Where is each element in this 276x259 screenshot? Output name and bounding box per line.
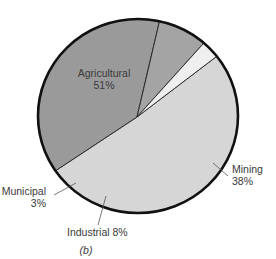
agricultural-label: Agricultural 51%	[74, 67, 134, 91]
caption-text: (b)	[80, 244, 93, 256]
municipal-percent: 3%	[0, 197, 46, 209]
industrial-name-percent: Industrial 8%	[67, 226, 128, 238]
agricultural-percent: 51%	[74, 79, 134, 91]
figure-caption: (b)	[66, 244, 106, 256]
municipal-name: Municipal	[0, 185, 46, 197]
pie-chart	[0, 0, 276, 259]
mining-label: Mining 38%	[232, 163, 263, 187]
agricultural-name: Agricultural	[74, 67, 134, 79]
mining-name: Mining	[232, 163, 263, 175]
industrial-label: Industrial 8%	[67, 226, 128, 238]
mining-percent: 38%	[232, 175, 263, 187]
municipal-label: Municipal 3%	[0, 185, 46, 209]
